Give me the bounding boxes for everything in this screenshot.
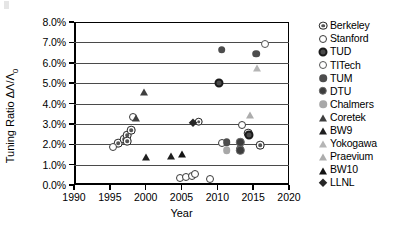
y-tick-mark	[69, 42, 74, 44]
y-tick-label: 4.0%	[42, 98, 66, 109]
plot-area: 0.0%1.0%2.0%3.0%4.0%5.0%6.0%7.0%8.0% 199…	[74, 22, 289, 185]
legend-marker-icon	[316, 32, 330, 45]
legend-item-llnl[interactable]: LLNL	[316, 176, 398, 189]
marker-ringed-filled-circle	[319, 87, 327, 95]
y-tick-mark	[69, 123, 74, 125]
legend-item-label: Coretek	[330, 112, 366, 123]
legend-item-coretek[interactable]: Coretek	[316, 111, 398, 124]
data-point-stanford	[191, 170, 199, 178]
legend-item-chalmers[interactable]: Chalmers	[316, 98, 398, 111]
data-point-praevium	[246, 111, 254, 118]
marker-diamond	[319, 178, 328, 187]
x-tick-label: 1990	[62, 192, 85, 203]
legend-item-label: Praevium	[330, 151, 373, 162]
gridline	[74, 42, 289, 43]
x-tick-mark	[181, 185, 183, 190]
legend-item-yokogawa[interactable]: Yokogawa	[316, 137, 398, 150]
marker-bold-ring-circle	[319, 47, 328, 56]
legend-item-label: Chalmers	[330, 99, 374, 110]
legend-item-label: BW9	[330, 125, 352, 136]
legend-item-dtu[interactable]: DTU	[316, 84, 398, 97]
marker-solid-triangle	[319, 167, 327, 174]
x-tick-mark	[145, 185, 147, 190]
y-tick-mark	[69, 144, 74, 146]
y-axis-title: Tuning Ratio ΔΛ/Λ0	[4, 68, 19, 163]
legend-item-stanford[interactable]: Stanford	[316, 32, 398, 45]
legend-item-label: TUD	[330, 46, 351, 57]
gridline	[74, 104, 289, 105]
data-point-titech	[261, 40, 269, 48]
marker-filled-circle	[319, 74, 327, 82]
legend-item-praevium[interactable]: Praevium	[316, 150, 398, 163]
legend-marker-icon	[316, 58, 330, 71]
legend-marker-icon	[316, 45, 330, 58]
legend-marker-icon	[316, 137, 330, 150]
x-tick-mark	[288, 185, 290, 190]
x-tick-label: 2010	[206, 192, 229, 203]
data-point-bw9	[142, 154, 150, 161]
marker-thin-open-circle	[319, 61, 327, 69]
legend-marker-icon	[316, 111, 330, 124]
tuning-ratio-scatter-chart: Tuning Ratio ΔΛ/Λ0 0.0%1.0%2.0%3.0%4.0%5…	[0, 0, 398, 231]
legend-item-tum[interactable]: TUM	[316, 71, 398, 84]
marker-light-triangle	[319, 141, 327, 148]
legend-item-label: DTU	[330, 86, 351, 97]
scan-artifact	[4, 1, 9, 9]
gridline	[74, 83, 289, 84]
data-point-berkeley	[123, 137, 132, 146]
legend-item-label: Berkeley	[330, 20, 370, 31]
legend-item-berkeley[interactable]: Berkeley	[316, 19, 398, 32]
y-tick-label: 3.0%	[42, 119, 66, 130]
gridline	[74, 124, 289, 125]
x-axis-title: Year	[170, 207, 192, 219]
data-point-tud	[244, 131, 253, 140]
y-axis-title-text: Tuning Ratio	[4, 101, 16, 163]
data-point-yokogawa	[253, 64, 261, 71]
data-point-coretek	[132, 114, 140, 121]
marker-bullseye-circle	[319, 21, 328, 30]
legend-item-label: Yokogawa	[330, 138, 377, 149]
legend-item-bw9[interactable]: BW9	[316, 124, 398, 137]
x-tick-mark	[217, 185, 219, 190]
data-point-berkeley	[127, 126, 136, 135]
y-tick-label: 2.0%	[42, 139, 66, 150]
legend-item-label: LLNL	[330, 177, 355, 188]
legend-item-bw10[interactable]: BW10	[316, 163, 398, 176]
x-tick-label: 1995	[98, 192, 121, 203]
data-point-tum	[252, 50, 260, 58]
marker-dark-triangle	[319, 115, 327, 122]
y-tick-label: 8.0%	[42, 17, 66, 28]
legend-marker-icon	[316, 98, 330, 111]
data-point-chalmers	[223, 147, 231, 155]
y-tick-mark	[69, 103, 74, 105]
x-tick-mark	[73, 185, 75, 190]
marker-black-triangle	[319, 128, 327, 135]
y-tick-label: 7.0%	[42, 37, 66, 48]
marker-light-gray-triangle	[319, 154, 327, 161]
data-point-bw9	[167, 153, 175, 160]
data-point-bw10	[178, 151, 186, 158]
y-tick-label: 6.0%	[42, 58, 66, 69]
data-point-stanford	[206, 175, 214, 183]
y-tick-mark	[69, 164, 74, 166]
data-point-stanford	[109, 143, 117, 151]
y-tick-mark	[69, 62, 74, 64]
data-point-stanford	[238, 121, 246, 129]
y-tick-label: 0.0%	[42, 180, 66, 191]
x-tick-mark	[109, 185, 111, 190]
y-axis-title-symbol: ΔΛ/Λ	[4, 73, 16, 98]
y-tick-mark	[69, 82, 74, 84]
legend-item-label: TITech	[330, 60, 361, 71]
data-point-tum	[223, 138, 231, 146]
legend-item-tud[interactable]: TUD	[316, 45, 398, 58]
legend-item-label: Stanford	[330, 33, 369, 44]
legend-item-titech[interactable]: TITech	[316, 58, 398, 71]
legend-item-label: TUM	[330, 73, 352, 84]
x-tick-label: 2005	[170, 192, 193, 203]
legend-marker-icon	[316, 163, 330, 176]
y-tick-label: 1.0%	[42, 159, 66, 170]
legend-marker-icon	[316, 150, 330, 163]
data-point-tud	[214, 79, 223, 88]
y-axis-title-subscript: 0	[11, 68, 20, 72]
gridline	[74, 165, 289, 166]
